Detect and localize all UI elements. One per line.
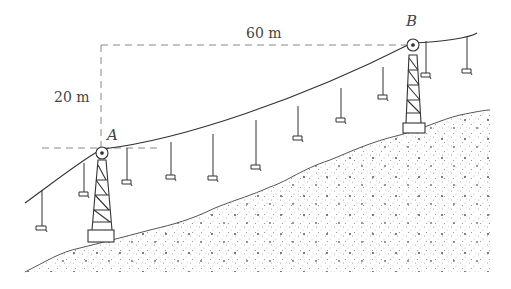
vertical-dimension-label: 20 m — [54, 90, 90, 104]
point-A-label: A — [107, 128, 118, 143]
hillside — [25, 110, 490, 272]
tower-A — [88, 147, 114, 242]
tower-B — [403, 39, 425, 133]
point-B-label: B — [406, 14, 417, 29]
horizontal-dimension-label: 60 m — [246, 26, 282, 40]
dimension-lines — [42, 45, 406, 148]
chairlift-diagram — [0, 0, 511, 289]
